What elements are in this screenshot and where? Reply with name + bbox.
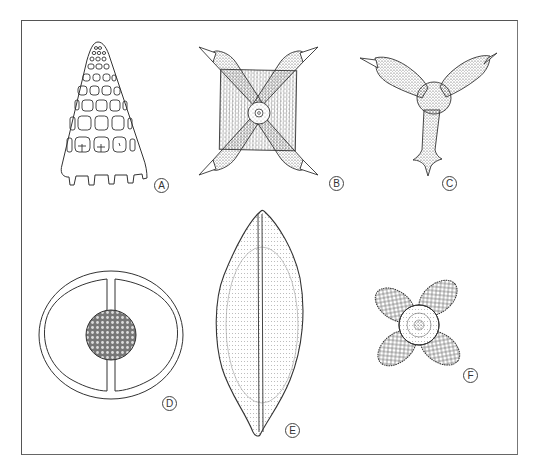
panel-label-f: F: [463, 368, 478, 383]
panel-label-d: D: [162, 396, 177, 411]
illustration-canvas: [0, 0, 540, 474]
specimen-b-four-armed-square: [199, 47, 318, 175]
specimen-e-spindle-valve: [216, 210, 303, 436]
specimen-c-triradiate: [360, 53, 497, 176]
specimen-f-four-lobed: [369, 273, 466, 373]
panel-label-e: E: [285, 423, 300, 438]
panel-label-b: B: [329, 176, 344, 191]
panel-label-a: A: [154, 178, 169, 193]
specimen-a-lattice-cone: [61, 42, 147, 185]
specimen-d-ring-with-sphere: [39, 271, 183, 399]
panel-label-c: C: [442, 176, 457, 191]
